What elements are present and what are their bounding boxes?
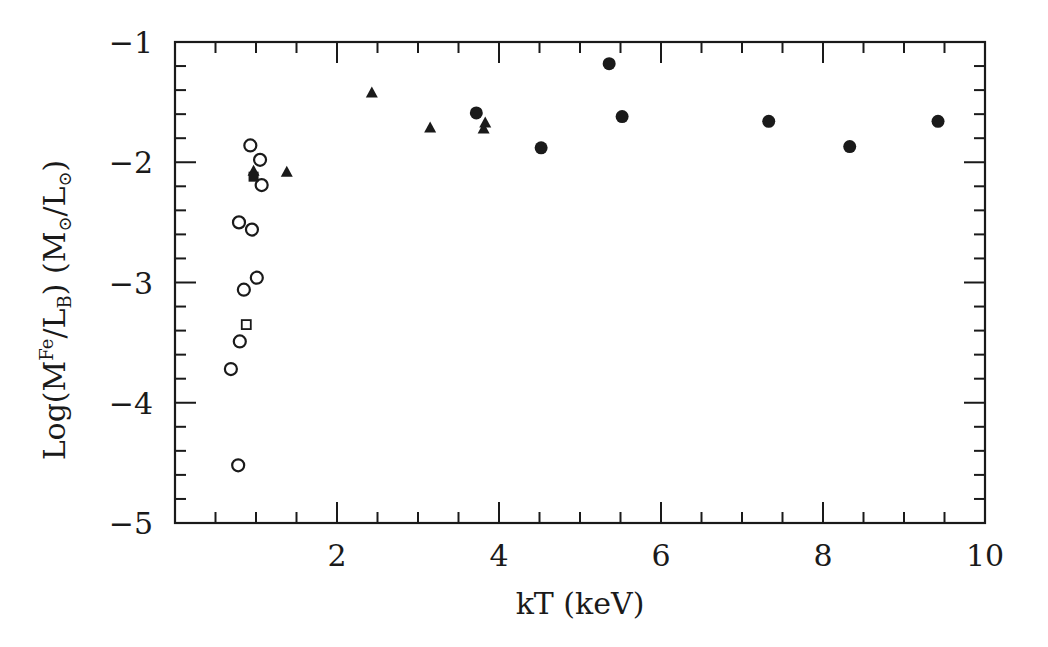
- y-tick-label: −2: [109, 145, 153, 180]
- ylabel-sun1: ⊙: [54, 217, 75, 232]
- ylabel-suffix: ) (M: [37, 232, 72, 296]
- x-tick-label: 6: [651, 538, 670, 573]
- x-tick-labels: 246810: [327, 538, 1004, 573]
- open-circle-marker: [233, 216, 245, 228]
- ylabel-slash: /L: [37, 186, 72, 216]
- open-square-marker: [242, 320, 251, 329]
- open-circle-marker: [254, 154, 266, 166]
- x-tick-label: 2: [327, 538, 346, 573]
- ylabel-sup: Fe: [36, 339, 57, 361]
- ylabel-end: ): [37, 160, 72, 172]
- filled-circle-marker: [762, 115, 775, 128]
- y-tick-label: −3: [109, 266, 153, 301]
- ylabel-sun2: ⊙: [54, 171, 75, 186]
- open-circle-marker: [234, 335, 246, 347]
- ylabel-prefix: Log(M: [37, 361, 72, 461]
- x-axis-label: kT (keV): [516, 586, 645, 621]
- filled-circle-marker: [843, 140, 856, 153]
- open-circle-marker: [232, 459, 244, 471]
- axes: [175, 42, 985, 523]
- scatter-chart: 246810 −1−2−3−4−5 kT (keV) Log(MFe/LB) (…: [0, 0, 1048, 647]
- filled-circle-marker: [603, 57, 616, 70]
- ylabel-mid: /L: [37, 308, 72, 338]
- plot-frame: [175, 42, 985, 523]
- filled-circle-marker: [616, 110, 629, 123]
- x-tick-label: 4: [489, 538, 508, 573]
- filled-square-marker: [249, 172, 259, 182]
- open-circle-marker: [225, 363, 237, 375]
- filled-circle-marker: [535, 141, 548, 154]
- filled-triangle-marker: [366, 87, 378, 98]
- filled-circle-marker: [932, 115, 945, 128]
- open-circle-marker: [251, 272, 263, 284]
- ylabel-sub: B: [54, 295, 75, 308]
- filled-triangle-marker: [281, 166, 293, 177]
- y-tick-labels: −1−2−3−4−5: [109, 25, 153, 541]
- y-tick-label: −4: [109, 386, 153, 421]
- y-tick-label: −1: [109, 25, 153, 60]
- x-tick-label: 8: [813, 538, 832, 573]
- open-circle-marker: [246, 224, 258, 236]
- open-circle-marker: [238, 284, 250, 296]
- y-tick-label: −5: [109, 506, 153, 541]
- filled-triangle-marker: [424, 121, 436, 132]
- y-axis-label: Log(MFe/LB) (M⊙/L⊙): [36, 160, 75, 461]
- data-points: [225, 57, 945, 471]
- x-tick-label: 10: [966, 538, 1004, 573]
- open-circle-marker: [244, 139, 256, 151]
- filled-circle-marker: [470, 106, 483, 119]
